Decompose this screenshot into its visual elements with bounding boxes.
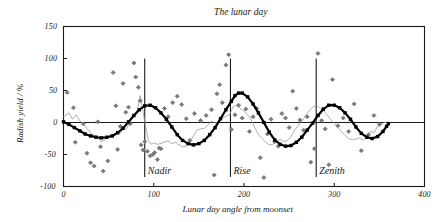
y-tick-label: -100 xyxy=(40,183,55,191)
event-marker-lines xyxy=(145,59,316,177)
x-tick-label: 300 xyxy=(328,191,341,199)
chart-canvas xyxy=(0,0,446,222)
x-tick-label: 400 xyxy=(418,191,431,199)
raw-mean-line xyxy=(64,96,389,147)
smoothed-fit-markers xyxy=(62,91,390,148)
x-tick-label: 0 xyxy=(61,191,65,199)
x-tick-label: 100 xyxy=(147,191,160,199)
y-tick-label: 100 xyxy=(45,55,58,63)
event-label-nadir: Nadir xyxy=(148,166,171,176)
y-tick-label: 150 xyxy=(45,23,58,31)
x-axis-title: Lunar day angle from moonset xyxy=(182,205,293,214)
chart-figure: The lunar day Lunar day angle from moons… xyxy=(0,0,446,222)
event-label-zenith: Zenith xyxy=(319,166,345,176)
x-tick-label: 200 xyxy=(238,191,251,199)
chart-title: The lunar day xyxy=(214,8,267,18)
y-axis-title: Radish yield / % xyxy=(16,84,25,143)
smoothed-fit-line xyxy=(64,93,389,146)
y-tick-label: 0 xyxy=(53,119,57,127)
y-tick-label: 50 xyxy=(49,87,57,95)
y-tick-label: -50 xyxy=(45,151,56,159)
event-label-rise: Rise xyxy=(233,166,250,176)
